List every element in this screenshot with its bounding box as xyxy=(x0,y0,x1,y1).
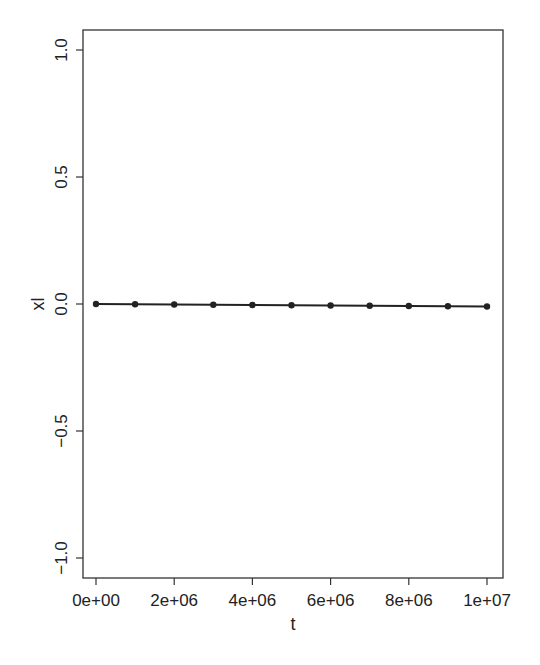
y-tick-label: 0.0 xyxy=(52,292,71,316)
data-point xyxy=(445,303,451,309)
x-tick-label: 4e+06 xyxy=(229,591,277,610)
y-tick-label: 1.0 xyxy=(52,38,71,62)
x-tick-label: 0e+00 xyxy=(72,591,120,610)
data-point xyxy=(132,301,138,307)
x-tick-label: 6e+06 xyxy=(307,591,355,610)
y-tick-label: −0.5 xyxy=(52,414,71,448)
data-point xyxy=(327,302,333,308)
y-tick-label: 0.5 xyxy=(52,165,71,189)
data-point xyxy=(210,302,216,308)
line-chart: 1.00.50.0−0.5−1.00e+002e+064e+066e+068e+… xyxy=(0,0,540,665)
data-point xyxy=(171,301,177,307)
x-tick-label: 1e+07 xyxy=(463,591,511,610)
data-point xyxy=(367,303,373,309)
data-point xyxy=(484,303,490,309)
data-point xyxy=(249,302,255,308)
data-point xyxy=(406,303,412,309)
x-axis-label: t xyxy=(290,614,295,634)
x-tick-label: 8e+06 xyxy=(385,591,433,610)
y-axis-label: xl xyxy=(28,298,48,311)
x-tick-label: 2e+06 xyxy=(150,591,198,610)
data-point xyxy=(93,301,99,307)
y-tick-label: −1.0 xyxy=(52,541,71,575)
data-point xyxy=(288,302,294,308)
